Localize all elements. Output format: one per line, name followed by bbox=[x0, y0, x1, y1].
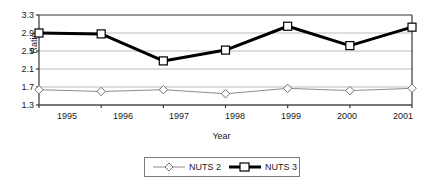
legend-label-nuts-2: NUTS 2 bbox=[189, 163, 221, 172]
legend-symbol-nuts-3 bbox=[229, 163, 261, 171]
chart-legend: NUTS 2 NUTS 3 bbox=[144, 157, 300, 177]
legend-label-nuts-3: NUTS 3 bbox=[265, 163, 297, 172]
legend-symbol-nuts-2 bbox=[153, 163, 185, 171]
chart-figure: Ratio 3.3 2.9 2.5 2.1 1.7 1.3 1995 1996 … bbox=[0, 0, 443, 188]
data-series-layer bbox=[35, 22, 416, 98]
